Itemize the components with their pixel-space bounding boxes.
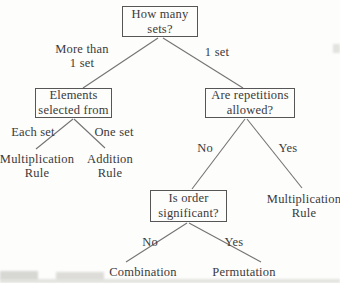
- branch-label-1-set: 1 set: [205, 45, 229, 59]
- node-how-many-sets-line1: How many: [132, 7, 189, 22]
- node-is-order-significant: Is order significant?: [150, 190, 227, 222]
- node-elements-selected-from: Elements selected from: [35, 88, 112, 118]
- outcome-combination: Combination: [109, 265, 176, 279]
- branch-label-more-than-1-set: More than 1 set: [55, 42, 109, 70]
- branch-label-more-than-line1: More than: [55, 42, 109, 56]
- outcome-multiplication-left-line2: Rule: [0, 166, 74, 180]
- node-order-line2: significant?: [158, 206, 219, 221]
- branch-label-order-yes: Yes: [225, 235, 244, 249]
- edge-root-to-repetitions: [163, 38, 243, 88]
- outcome-addition-line1: Addition: [87, 152, 133, 166]
- node-how-many-sets-line2: sets?: [147, 22, 172, 37]
- node-elements-line2: selected from: [38, 103, 108, 118]
- outcome-multiplication-right-line2: Rule: [267, 206, 340, 220]
- scan-artifact: [333, 44, 340, 53]
- node-are-repetitions-allowed: Are repetitions allowed?: [205, 88, 295, 118]
- branch-label-order-no: No: [142, 235, 158, 249]
- outcome-addition-rule: Addition Rule: [87, 152, 133, 180]
- node-repetitions-line2: allowed?: [227, 103, 274, 118]
- branch-label-repetitions-no: No: [197, 141, 213, 155]
- outcome-multiplication-left-line1: Multiplication: [0, 152, 74, 166]
- node-order-line1: Is order: [168, 191, 208, 206]
- outcome-multiplication-rule-right: Multiplication Rule: [267, 192, 340, 220]
- outcome-multiplication-right-line1: Multiplication: [267, 192, 340, 206]
- node-repetitions-line1: Are repetitions: [211, 88, 289, 103]
- node-elements-line1: Elements: [49, 88, 97, 103]
- branch-label-more-than-line2: 1 set: [55, 56, 109, 70]
- outcome-addition-line2: Rule: [87, 166, 133, 180]
- branch-label-each-set: Each set: [11, 125, 55, 139]
- outcome-multiplication-rule-left: Multiplication Rule: [0, 152, 74, 180]
- branch-label-one-set: One set: [94, 125, 133, 139]
- outcome-permutation: Permutation: [212, 265, 275, 279]
- branch-label-repetitions-yes: Yes: [279, 141, 298, 155]
- decision-tree-diagram: How many sets? Elements selected from Ar…: [0, 0, 340, 283]
- scan-artifact: [0, 279, 340, 283]
- node-how-many-sets: How many sets?: [122, 6, 198, 37]
